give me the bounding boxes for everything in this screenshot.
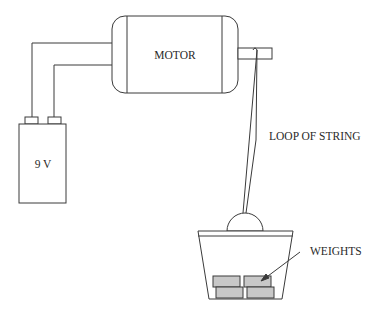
weight-block [247,287,274,298]
weights-label: WEIGHTS [310,245,362,257]
bucket-handle-dome [227,213,263,231]
string-left-strand [243,48,257,213]
motor-shaft [238,48,272,59]
battery-terminal-left [25,117,38,124]
string-label: LOOP OF STRING [269,130,361,142]
bucket-body [198,231,293,299]
diagram-canvas: MOTOR 9 V LOOP OF STRING [0,0,384,317]
battery-label: 9 V [35,158,52,170]
weight-block [213,276,240,287]
wire-outer [32,43,112,118]
weight-block [216,287,243,298]
wire-inner [54,65,112,118]
battery-terminal-right [48,117,61,124]
motor-label: MOTOR [154,49,196,61]
string-loop [243,48,257,213]
wires [32,43,112,118]
